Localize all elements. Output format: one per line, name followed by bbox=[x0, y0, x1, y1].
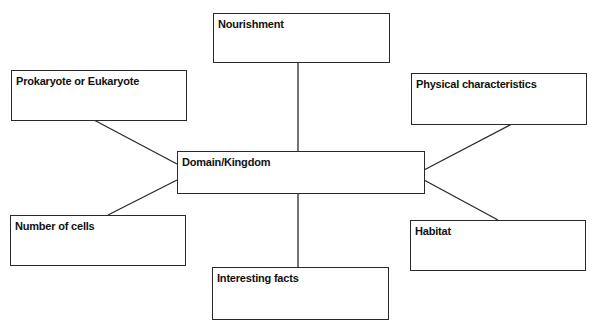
node-physical-characteristics: Physical characteristics bbox=[411, 73, 587, 125]
edge-domain-habitat bbox=[424, 180, 498, 220]
node-prokaryote-or-eukaryote: Prokaryote or Eukaryote bbox=[11, 70, 187, 121]
node-label: Nourishment bbox=[218, 18, 385, 30]
node-number-of-cells: Number of cells bbox=[10, 215, 186, 266]
node-domain-kingdom: Domain/Kingdom bbox=[177, 151, 425, 194]
center-label: Domain/Kingdom bbox=[182, 156, 420, 168]
node-interesting-facts: Interesting facts bbox=[212, 267, 389, 320]
node-label: Physical characteristics bbox=[416, 78, 582, 90]
node-label: Number of cells bbox=[15, 220, 181, 232]
edge-domain-prokaryote bbox=[94, 120, 177, 164]
node-label: Interesting facts bbox=[217, 272, 384, 284]
node-label: Prokaryote or Eukaryote bbox=[16, 75, 182, 87]
node-nourishment: Nourishment bbox=[213, 13, 390, 63]
node-habitat: Habitat bbox=[410, 220, 586, 271]
edge-domain-cells bbox=[108, 180, 177, 215]
node-label: Habitat bbox=[415, 225, 581, 237]
edge-domain-physical bbox=[424, 124, 512, 170]
